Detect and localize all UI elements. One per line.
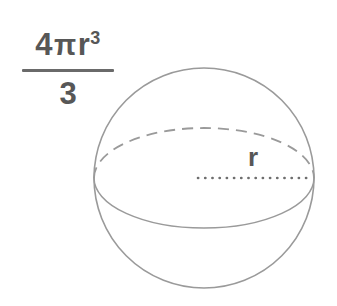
formula-exponent: 3 (90, 28, 101, 48)
pi-symbol: π (53, 29, 78, 61)
equator-front-arc-solid (94, 178, 314, 228)
volume-formula: 4πr3 3 (18, 22, 118, 116)
figure-canvas: 4πr3 3 r (0, 0, 337, 306)
formula-coefficient: 4 (35, 27, 53, 62)
formula-denominator: 3 (18, 72, 118, 116)
equator-back-arc-dashed (94, 128, 314, 178)
formula-numerator: 4πr3 (18, 22, 118, 68)
formula-variable-r: r (78, 27, 91, 62)
radius-label: r (248, 144, 258, 170)
